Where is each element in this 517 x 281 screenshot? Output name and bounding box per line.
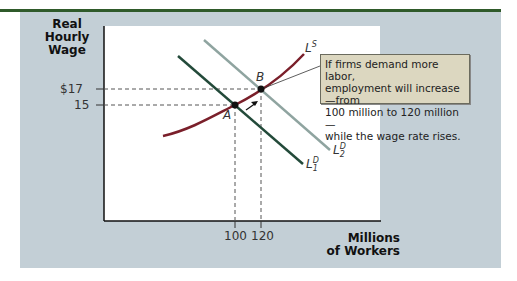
x-axis-label: Millions of Workers	[300, 232, 400, 258]
y-tick-label: $17	[60, 82, 83, 96]
demand1-label-sub: 1	[313, 164, 318, 173]
point-a-label: A	[223, 108, 231, 122]
point-b	[258, 86, 265, 93]
demand1-label-main: L	[306, 157, 313, 171]
demand2-label-main: L	[333, 143, 340, 157]
y-label-line: Wage	[40, 44, 94, 57]
supply-label-sup: S	[312, 40, 317, 49]
x-tick-label: 120	[251, 229, 274, 243]
callout-line: employment will increase—from	[325, 82, 465, 106]
callout-line: while the wage rate rises.	[325, 130, 465, 142]
demand1-label: LD1	[306, 156, 318, 173]
demand2-label: LD2	[333, 142, 345, 159]
supply-label: LS	[305, 40, 317, 55]
point-b-label: B	[256, 70, 264, 84]
x-tick-label: 100	[224, 229, 247, 243]
y-tick-label: 15	[74, 98, 89, 112]
demand2-label-sub: 2	[340, 150, 345, 159]
x-label-line: of Workers	[300, 245, 400, 258]
supply-label-main: L	[305, 41, 312, 55]
callout-leader	[264, 66, 320, 88]
point-a	[232, 102, 239, 109]
callout-line: 100 million to 120 million—	[325, 106, 465, 130]
callout-line: If firms demand more labor,	[325, 58, 465, 82]
y-axis-label: Real Hourly Wage	[40, 18, 94, 57]
annotation-callout: If firms demand more labor, employment w…	[320, 54, 470, 104]
